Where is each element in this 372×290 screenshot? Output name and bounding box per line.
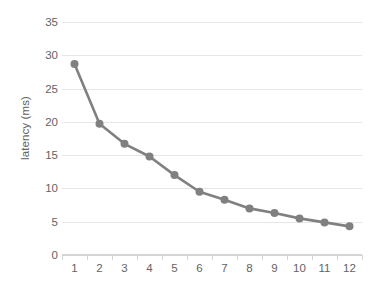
data-point: [146, 152, 154, 160]
series-line: [75, 64, 350, 226]
x-axis-tick-label: 5: [171, 262, 177, 274]
x-axis-tickmark: [112, 255, 113, 260]
data-point: [271, 209, 279, 217]
data-point: [171, 171, 179, 179]
x-axis-tick-label: 11: [319, 262, 331, 274]
data-point: [196, 188, 204, 196]
x-axis-tickmark: [162, 255, 163, 260]
y-axis-tick-labels: 05101520253035: [30, 0, 58, 290]
y-axis-tick-label: 10: [45, 182, 58, 194]
series-markers: [71, 60, 354, 230]
line-chart: latency (ms) 05101520253035 123456789101…: [0, 0, 372, 290]
x-axis-tick-label: 9: [271, 262, 277, 274]
x-axis-tick-label: 4: [146, 262, 152, 274]
x-axis-tick-labels: 123456789101112: [62, 262, 362, 282]
x-axis-tick-label: 7: [221, 262, 227, 274]
x-axis-tick-label: 2: [96, 262, 102, 274]
y-axis-tick-label: 20: [45, 116, 58, 128]
series-latency: [62, 22, 362, 255]
x-axis-tick-label: 3: [121, 262, 127, 274]
x-axis-tickmark: [287, 255, 288, 260]
y-axis-tick-label: 5: [52, 216, 58, 228]
data-point: [296, 214, 304, 222]
data-point: [321, 218, 329, 226]
x-axis-tickmark: [137, 255, 138, 260]
y-axis-tick-label: 25: [45, 83, 58, 95]
x-axis-tick-label: 10: [293, 262, 306, 274]
data-point: [96, 120, 104, 128]
data-point: [346, 222, 354, 230]
y-axis-tick-label: 0: [52, 249, 58, 261]
y-axis-tick-label: 35: [45, 16, 58, 28]
y-axis-tick-label: 30: [45, 49, 58, 61]
x-axis-tickmark: [262, 255, 263, 260]
x-axis-tick-label: 6: [196, 262, 202, 274]
x-axis-tickmark: [62, 255, 63, 260]
x-axis-tickmark: [312, 255, 313, 260]
data-point: [246, 204, 254, 212]
x-axis-tick-label: 1: [71, 262, 77, 274]
x-axis-tickmark: [337, 255, 338, 260]
x-axis-tickmark: [237, 255, 238, 260]
x-axis-tickmark: [187, 255, 188, 260]
y-axis-tick-label: 15: [45, 149, 58, 161]
plot-area: [62, 22, 362, 255]
x-axis-tick-label: 12: [343, 262, 356, 274]
data-point: [121, 140, 129, 148]
x-axis-tick-label: 8: [246, 262, 252, 274]
x-axis-tickmark: [87, 255, 88, 260]
data-point: [71, 60, 79, 68]
x-axis-tickmark: [212, 255, 213, 260]
x-axis-tickmark: [362, 255, 363, 260]
data-point: [221, 196, 229, 204]
